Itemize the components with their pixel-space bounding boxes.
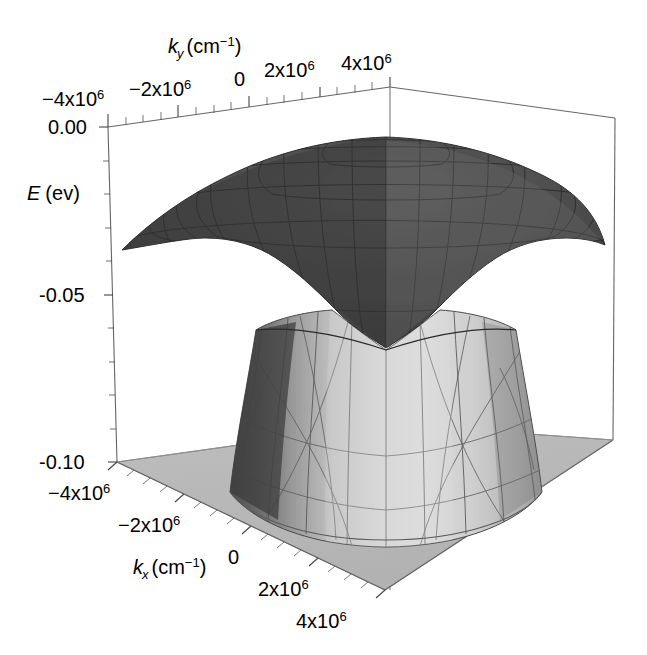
y-tick-label-m2: −2x106 xyxy=(129,77,191,100)
x-tick-major-p2 xyxy=(309,558,318,566)
y-tick-label-0: 0 xyxy=(234,68,245,90)
x-tick-major-p4 xyxy=(376,590,385,598)
x-tick-major-m4 xyxy=(108,462,117,470)
z-tick-label-1: -0.05 xyxy=(39,284,85,306)
cap-highlight xyxy=(386,140,600,348)
x-tick-label-m4: −4x106 xyxy=(48,481,110,504)
x-tick-label-m2: −2x106 xyxy=(118,513,180,536)
y-axis-title: ky(cm−1) xyxy=(168,34,241,61)
z-axis-title: E(ev) xyxy=(27,182,80,204)
y-tick-label-m4: −4x106 xyxy=(42,87,104,110)
y-tick-label-p2: 2x106 xyxy=(264,58,315,81)
x-axis-title: kx(cm−1) xyxy=(133,555,206,582)
surface-plot-3d: ky(cm−1) kx(cm−1) E(ev) 0.00 -0.05 -0.10… xyxy=(0,0,647,655)
x-tick-label-p2: 2x106 xyxy=(258,577,309,600)
surface-cap xyxy=(122,137,625,357)
z-tick-label-2: -0.10 xyxy=(39,451,85,473)
y-tick-labels: −4x106 −2x106 0 2x106 4x106 xyxy=(42,51,392,110)
z-axis-ticks xyxy=(99,127,117,462)
box-edge-vertical-right xyxy=(613,118,615,440)
x-tick-major-0 xyxy=(242,526,251,534)
z-tick-label-0: 0.00 xyxy=(48,116,87,138)
box-edge-top-right-back xyxy=(390,87,615,118)
y-tick-label-p4: 4x106 xyxy=(341,51,392,74)
x-tick-major-m2 xyxy=(175,494,184,502)
x-tick-label-p4: 4x106 xyxy=(296,609,347,632)
figure-root: ky(cm−1) kx(cm−1) E(ev) 0.00 -0.05 -0.10… xyxy=(0,0,647,655)
x-tick-label-0: 0 xyxy=(228,546,239,568)
